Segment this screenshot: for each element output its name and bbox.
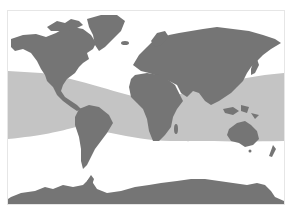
antarctica: [8, 177, 284, 204]
world-map: [7, 10, 285, 205]
madagascar: [174, 124, 178, 134]
tasmania: [249, 150, 252, 153]
iceland: [121, 41, 129, 45]
south-america: [75, 105, 113, 169]
new-zealand: [269, 145, 276, 157]
